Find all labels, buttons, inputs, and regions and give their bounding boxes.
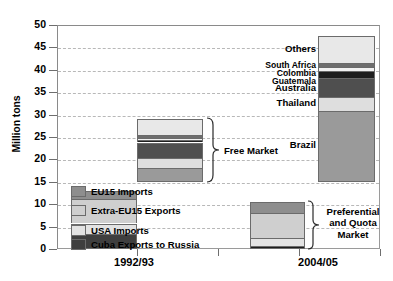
y-axis-title: Million tons xyxy=(10,78,22,170)
bar-1992-fm-colombia xyxy=(137,138,203,140)
legend-item-extra-eu15-exports: Extra-EU15 Exports xyxy=(71,205,181,216)
bar-2004-fm-guatemala xyxy=(318,71,375,78)
x-tick-mid xyxy=(218,249,219,256)
y-label-0: 0 xyxy=(6,243,46,254)
y-tick-45 xyxy=(49,47,57,48)
legend-label-eu15-imports: EU15 Imports xyxy=(91,186,153,197)
bar-2004-fm-others xyxy=(318,36,375,63)
legend-swatch-extra-eu15-exports xyxy=(71,205,86,216)
bracket-preferential-quota xyxy=(306,200,321,250)
bar-2004-pq-eu15 xyxy=(250,202,305,213)
bar-2004-fm-australia xyxy=(318,78,375,96)
legend-swatch-eu15-imports xyxy=(71,186,86,197)
bar-2004-fm-south-africa xyxy=(318,63,375,67)
annotation-australia: Australia xyxy=(238,83,316,93)
bar-2004-pq-usa xyxy=(250,238,305,246)
bar-2004-fm-colombia xyxy=(318,67,375,71)
bar-1992-fm-australia xyxy=(137,143,203,158)
x-tick-2 xyxy=(299,249,300,256)
annotation-thailand: Thailand xyxy=(238,98,316,108)
chart-root: 0 5 10 15 20 25 30 35 40 45 50 Million t… xyxy=(0,0,393,281)
bar-1992-fm-thailand xyxy=(137,158,203,169)
bracket-label-preferential-quota: Preferential and Quota Market xyxy=(322,206,384,240)
annotation-others: Others xyxy=(238,44,316,54)
x-label-2004: 2004/05 xyxy=(258,256,378,268)
bar-1992-fm-guatemala xyxy=(137,140,203,143)
y-tick-20 xyxy=(49,159,57,160)
legend-label-extra-eu15-exports: Extra-EU15 Exports xyxy=(91,205,181,216)
bar-2004-pq-cuba xyxy=(250,246,305,249)
bar-2004-fm-thailand xyxy=(318,97,375,111)
y-label-5: 5 xyxy=(6,221,46,232)
y-tick-10 xyxy=(49,204,57,205)
bar-1992-fm-brazil xyxy=(137,168,203,181)
y-tick-15 xyxy=(49,182,57,183)
y-axis-line xyxy=(57,25,58,249)
y-tick-35 xyxy=(49,92,57,93)
bar-1992-fm-others xyxy=(137,119,203,135)
legend-item-usa-imports: USA Imports xyxy=(71,225,149,236)
y-label-50: 50 xyxy=(6,19,46,30)
y-label-45: 45 xyxy=(6,41,46,52)
bar-1992-fm-south-africa xyxy=(137,135,203,138)
x-tick-1 xyxy=(137,249,138,256)
bar-2004-fm-brazil xyxy=(318,111,375,182)
y-label-10: 10 xyxy=(6,198,46,209)
y-tick-40 xyxy=(49,70,57,71)
y-tick-30 xyxy=(49,115,57,116)
legend-label-usa-imports: USA Imports xyxy=(91,225,149,236)
x-label-1992: 1992/93 xyxy=(74,256,194,268)
bar-2004-pq-extra-eu15 xyxy=(250,213,305,238)
bracket-free-market xyxy=(205,117,221,183)
legend-item-eu15-imports: EU15 Imports xyxy=(71,186,153,197)
legend-item-cuba-exports: Cuba Exports to Russia xyxy=(71,239,199,250)
y-tick-50 xyxy=(49,25,57,26)
y-tick-0 xyxy=(49,249,57,250)
y-tick-25 xyxy=(49,137,57,138)
x-tick-end xyxy=(380,249,381,256)
y-label-40: 40 xyxy=(6,64,46,75)
legend-swatch-cuba-exports xyxy=(71,239,86,250)
legend-label-cuba-exports: Cuba Exports to Russia xyxy=(91,239,199,250)
y-label-15: 15 xyxy=(6,176,46,187)
y-tick-5 xyxy=(49,227,57,228)
bracket-label-free-market: Free Market xyxy=(224,145,278,156)
legend-swatch-usa-imports xyxy=(71,225,86,236)
